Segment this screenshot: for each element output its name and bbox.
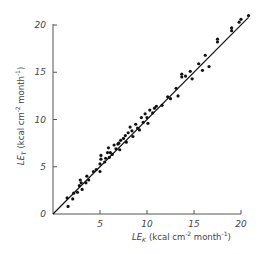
data-point: [118, 148, 121, 151]
data-point: [145, 116, 148, 119]
data-point: [98, 170, 101, 173]
data-point: [111, 153, 114, 156]
data-point: [216, 38, 219, 41]
data-point: [79, 178, 82, 181]
x-tick-label: 10: [141, 219, 153, 229]
data-point: [180, 73, 183, 76]
data-point: [85, 175, 88, 178]
data-point: [104, 157, 107, 160]
data-point: [155, 105, 158, 108]
data-point: [78, 184, 81, 187]
data-point: [189, 70, 192, 73]
data-point: [140, 116, 143, 119]
data-point: [184, 74, 187, 77]
data-point: [175, 87, 178, 90]
data-point: [201, 69, 204, 72]
data-point: [180, 75, 183, 78]
data-point: [92, 170, 95, 173]
y-tick-label: 15: [35, 67, 47, 77]
data-point: [106, 151, 109, 154]
data-point: [151, 111, 154, 114]
data-point: [128, 125, 131, 128]
data-point: [197, 62, 200, 65]
y-axis-ticks: 05101520: [35, 20, 57, 219]
data-point: [130, 129, 133, 132]
data-point: [134, 123, 137, 126]
data-point: [191, 77, 194, 80]
data-point: [142, 121, 145, 124]
data-point: [114, 147, 117, 150]
data-point: [117, 142, 120, 145]
data-point: [230, 29, 233, 32]
x-tick-label: 5: [97, 219, 103, 229]
data-point: [125, 141, 128, 144]
data-point: [99, 158, 102, 161]
data-point: [148, 108, 151, 111]
data-point: [66, 196, 69, 199]
data-point: [160, 104, 163, 107]
data-point: [216, 40, 219, 43]
y-tick-label: 20: [35, 20, 47, 30]
data-point: [95, 168, 98, 171]
data-point: [80, 181, 83, 184]
data-point: [131, 135, 134, 138]
x-tick-label: 20: [235, 219, 247, 229]
data-point: [103, 160, 106, 163]
data-point: [124, 134, 127, 137]
data-point: [127, 131, 130, 134]
data-point: [247, 14, 250, 17]
data-point: [166, 95, 169, 98]
data-point: [108, 156, 111, 159]
y-tick-label: 5: [40, 162, 46, 172]
data-point: [144, 112, 147, 115]
one-to-one-line: [53, 17, 249, 214]
x-axis-label: LEK(kcal cm-2 month-1): [132, 230, 231, 243]
data-point: [146, 122, 149, 125]
data-point: [84, 181, 87, 184]
data-point: [72, 192, 75, 195]
data-point: [107, 146, 110, 149]
data-point: [169, 97, 172, 100]
y-tick-label: 0: [40, 209, 46, 219]
x-axis-ticks: 5101520: [97, 210, 247, 229]
y-axis-label: LET(kcal cm-2 month-1): [14, 67, 27, 166]
data-point: [66, 205, 69, 208]
data-point: [204, 54, 207, 57]
data-point: [76, 191, 79, 194]
data-point: [99, 154, 102, 157]
data-point: [119, 139, 122, 142]
data-point: [239, 18, 242, 21]
data-point: [113, 143, 116, 146]
data-point: [138, 128, 141, 131]
data-point: [87, 178, 90, 181]
data-point: [230, 26, 233, 29]
data-point: [207, 65, 210, 68]
y-tick-label: 10: [35, 115, 47, 125]
data-point: [81, 188, 84, 191]
scatter-chart: 05101520 5101520 LEK(kcal cm-2 month-1) …: [0, 0, 261, 254]
x-tick-label: 15: [188, 219, 200, 229]
data-point: [71, 197, 74, 200]
data-point: [122, 137, 125, 140]
data-point: [238, 21, 241, 24]
data-point: [98, 162, 101, 165]
data-point: [176, 94, 179, 97]
